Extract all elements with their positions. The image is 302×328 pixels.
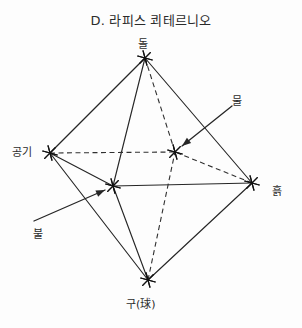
edge-bottom-front-center xyxy=(113,186,148,280)
vertex-label-bottom: 구(球) xyxy=(126,299,156,310)
node-bottom xyxy=(141,273,155,287)
vertex-label-right: 흙 xyxy=(272,186,282,197)
edge-top-left xyxy=(50,58,145,153)
vertex-label-top: 돌 xyxy=(138,39,148,50)
vertex-label-left: 공기 xyxy=(12,147,32,158)
edge-layer xyxy=(50,58,252,280)
vertex-label-back-center: 물 xyxy=(232,96,242,107)
edge-left-back-center xyxy=(50,152,175,153)
fire-pointer-head-icon xyxy=(95,190,105,197)
edge-top-right xyxy=(145,58,252,183)
vertex-label-front-center: 불 xyxy=(33,229,43,240)
edge-left-front-center xyxy=(50,153,113,186)
diagram-canvas xyxy=(0,0,302,328)
star-ray xyxy=(143,275,154,286)
water-pointer xyxy=(182,106,232,146)
edge-left-bottom xyxy=(50,153,148,280)
edge-top-front-center xyxy=(113,58,145,186)
edge-right-back-center xyxy=(175,152,252,183)
node-layer xyxy=(43,51,259,287)
node-left xyxy=(43,146,57,160)
edge-top-back-center xyxy=(145,58,175,152)
edge-right-front-center xyxy=(113,183,252,186)
edge-bottom-back-center xyxy=(148,152,175,280)
water-pointer-shaft xyxy=(182,106,232,146)
fire-pointer-shaft xyxy=(34,190,105,221)
edge-right-bottom xyxy=(148,183,252,280)
figure-root: D. 라피스 쾨테르니오 돌공기흙구(球)물불 xyxy=(0,0,302,328)
fire-pointer xyxy=(34,190,105,221)
